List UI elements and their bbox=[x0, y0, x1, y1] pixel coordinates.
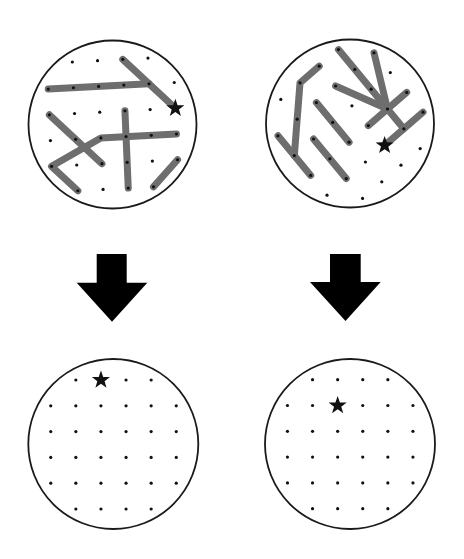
diagram-svg bbox=[0, 0, 464, 559]
grid-dot bbox=[386, 481, 389, 484]
grid-dot bbox=[311, 378, 314, 381]
grid-dot bbox=[411, 404, 414, 407]
grid-dot bbox=[76, 189, 79, 192]
grid-dot bbox=[350, 104, 353, 107]
grid-dot bbox=[328, 157, 331, 160]
grid-dot bbox=[98, 111, 101, 114]
grid-dot bbox=[74, 430, 77, 433]
panel-bottom-right bbox=[265, 359, 435, 529]
grid-dot bbox=[361, 404, 364, 407]
grid-dot bbox=[361, 430, 364, 433]
grid-dot bbox=[150, 482, 153, 485]
grid-dot bbox=[311, 430, 314, 433]
grid-dot bbox=[331, 121, 334, 124]
grid-dot bbox=[318, 65, 321, 68]
grid-dot bbox=[127, 187, 130, 190]
grid-dot bbox=[49, 139, 52, 142]
grid-dot bbox=[73, 112, 76, 115]
grid-dot bbox=[124, 456, 127, 459]
grid-dot bbox=[124, 482, 127, 485]
grid-dot bbox=[312, 137, 315, 140]
grid-dot bbox=[386, 430, 389, 433]
grid-dot bbox=[311, 507, 314, 510]
grid-dot bbox=[49, 456, 52, 459]
grid-dot bbox=[175, 456, 178, 459]
grid-dot bbox=[48, 113, 51, 116]
grid-dot bbox=[402, 127, 405, 130]
grid-dot bbox=[99, 136, 102, 139]
grid-dot bbox=[72, 86, 75, 89]
grid-dot bbox=[337, 48, 340, 51]
grid-dot bbox=[124, 430, 127, 433]
grid-dot bbox=[150, 134, 153, 137]
grid-dot bbox=[99, 430, 102, 433]
grid-dot bbox=[99, 456, 102, 459]
grid-dot bbox=[311, 456, 314, 459]
grid-dot bbox=[146, 56, 149, 59]
grid-dot bbox=[411, 430, 414, 433]
grid-dot bbox=[345, 177, 348, 180]
grid-dot bbox=[361, 507, 364, 510]
grid-dot bbox=[370, 88, 373, 91]
grid-dot bbox=[150, 507, 153, 510]
grid-dot bbox=[286, 430, 289, 433]
grid-dot bbox=[386, 378, 389, 381]
petri-dish-circle bbox=[28, 359, 198, 529]
grid-dot bbox=[279, 98, 282, 101]
grid-dot bbox=[386, 507, 389, 510]
grid-dot bbox=[150, 378, 153, 381]
grid-dot bbox=[74, 507, 77, 510]
grid-dot bbox=[311, 481, 314, 484]
arrow-down-icon bbox=[310, 254, 381, 321]
grid-dot bbox=[421, 111, 424, 114]
grid-dot bbox=[123, 109, 126, 112]
grid-dot bbox=[411, 481, 414, 484]
grid-dot bbox=[74, 138, 77, 141]
grid-dot bbox=[151, 159, 154, 162]
grid-dot bbox=[372, 51, 375, 54]
grid-dot bbox=[150, 404, 153, 407]
grid-dot bbox=[386, 107, 389, 110]
grid-dot bbox=[47, 87, 50, 90]
grid-dot bbox=[49, 404, 52, 407]
grid-dot bbox=[124, 507, 127, 510]
grid-dot bbox=[150, 456, 153, 459]
grid-dot bbox=[124, 404, 127, 407]
grid-dot bbox=[175, 404, 178, 407]
petri-dish-circle bbox=[29, 41, 197, 209]
grid-dot bbox=[124, 378, 127, 381]
grid-dot bbox=[124, 135, 127, 138]
grid-dot bbox=[99, 482, 102, 485]
grid-dot bbox=[367, 124, 370, 127]
grid-dot bbox=[121, 58, 124, 61]
grid-dot bbox=[175, 132, 178, 135]
grid-dot bbox=[74, 482, 77, 485]
arrow-left bbox=[77, 254, 148, 322]
grid-dot bbox=[71, 60, 74, 63]
grid-dot bbox=[99, 404, 102, 407]
grid-dot bbox=[296, 118, 299, 121]
grid-dot bbox=[126, 161, 129, 164]
grid-dot bbox=[419, 147, 422, 150]
grid-dot bbox=[150, 430, 153, 433]
grid-dot bbox=[49, 482, 52, 485]
grid-dot bbox=[399, 164, 402, 167]
grid-dot bbox=[361, 456, 364, 459]
grid-dot bbox=[74, 378, 77, 381]
grid-dot bbox=[386, 404, 389, 407]
grid-dot bbox=[380, 180, 383, 183]
grid-dot bbox=[347, 141, 350, 144]
grid-dot bbox=[175, 482, 178, 485]
petri-dish-circle bbox=[265, 359, 435, 529]
grid-dot bbox=[152, 185, 155, 188]
grid-dot bbox=[286, 404, 289, 407]
grid-dot bbox=[149, 108, 152, 111]
grid-dot bbox=[101, 188, 104, 191]
grid-dot bbox=[353, 68, 356, 71]
grid-dot bbox=[276, 134, 279, 137]
grid-dot bbox=[74, 404, 77, 407]
grid-dot bbox=[286, 456, 289, 459]
grid-dot bbox=[325, 194, 328, 197]
grid-dot bbox=[147, 82, 150, 85]
diagram-canvas bbox=[0, 0, 464, 559]
